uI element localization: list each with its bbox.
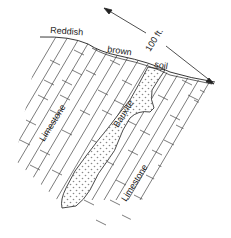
- label-brown: brown: [107, 44, 133, 57]
- bauxite-stipple: [62, 67, 166, 208]
- bauxite-cross-section: Reddish brown soil 100 ft. Limestone Bau…: [0, 0, 231, 238]
- label-reddish: Reddish: [50, 25, 84, 37]
- soil-surface-top: [40, 37, 215, 82]
- label-scale: 100 ft.: [143, 27, 165, 54]
